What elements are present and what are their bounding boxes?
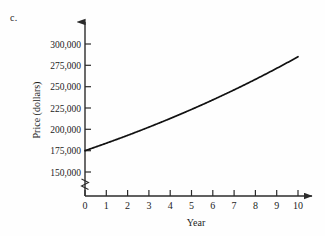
x-tick-label: 4 [168, 200, 173, 211]
x-axis-ticks [85, 190, 298, 196]
price-curve [85, 57, 298, 151]
x-tick-label: 6 [210, 200, 215, 211]
x-tick-label: 10 [293, 200, 303, 211]
x-tick-label: 5 [189, 200, 194, 211]
x-tick-label: 3 [146, 200, 151, 211]
y-tick-label: 275,000 [50, 61, 81, 71]
y-tick-label: 150,000 [50, 168, 81, 178]
y-axis-ticks [85, 44, 91, 172]
y-tick-label: 225,000 [50, 104, 81, 114]
price-vs-year-chart: 300,000 275,000 250,000 225,000 200,000 … [0, 0, 325, 236]
x-tick-label: 9 [274, 200, 279, 211]
x-axis-title: Year [187, 217, 206, 228]
y-axis-title: Price (dollars) [31, 82, 43, 139]
y-axis-break-symbol [82, 179, 89, 190]
y-tick-label: 300,000 [50, 40, 81, 50]
y-tick-label: 200,000 [50, 125, 81, 135]
x-tick-label: 7 [232, 200, 237, 211]
y-tick-label: 250,000 [50, 82, 81, 92]
x-tick-label: 0 [83, 200, 88, 211]
x-tick-label: 2 [125, 200, 130, 211]
x-tick-label: 1 [104, 200, 109, 211]
y-tick-label: 175,000 [50, 146, 81, 156]
figure-container: c. 300,000 275, [0, 0, 325, 236]
x-tick-label: 8 [253, 200, 258, 211]
